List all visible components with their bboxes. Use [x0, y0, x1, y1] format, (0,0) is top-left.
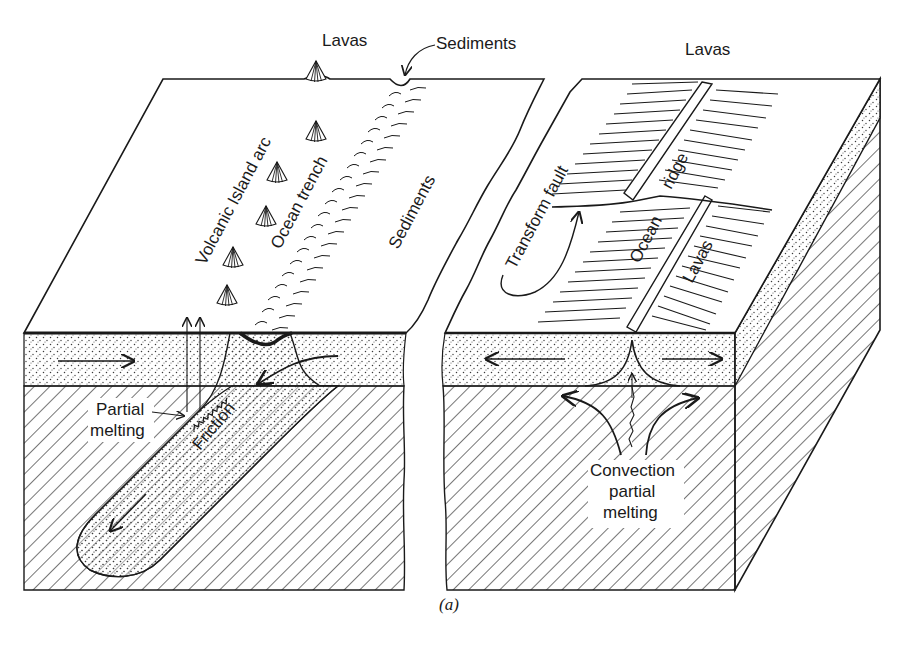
arrow-icon [405, 45, 435, 75]
tectonic-block-diagram: Lavas Sediments Volcanic Island arc Ocea… [0, 0, 899, 670]
label-sediments-top: Sediments [436, 34, 516, 53]
volcano-cone-icon [306, 61, 326, 82]
label-lavas-right: Lavas [685, 40, 730, 59]
label-partial-melting-1: Partial [96, 400, 144, 419]
label-lavas-left: Lavas [322, 31, 367, 50]
left-lithosphere-layer [24, 333, 406, 386]
label-convection-3: melting [603, 503, 658, 522]
label-convection-1: Convection [590, 461, 675, 480]
label-convection-2: partial [609, 482, 655, 501]
figure-caption: (a) [439, 595, 459, 614]
label-partial-melting-2: melting [90, 421, 145, 440]
